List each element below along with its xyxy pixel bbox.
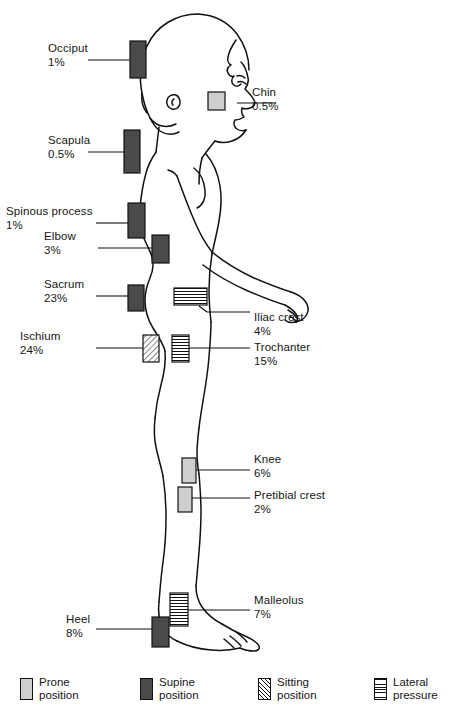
marker-occiput [130,41,146,78]
label-ischium-value: 24% [20,344,60,358]
label-occiput: Occiput 1% [48,42,88,69]
legend-label-lateral-line2: pressure [393,689,438,702]
label-ischium: Ischium 24% [20,330,60,357]
body-figure-svg [0,0,452,720]
legend: Prone position Supine position Sitting p… [0,668,452,712]
label-chin: Chin 0.5% [252,86,279,113]
label-occiput-value: 1% [48,56,88,70]
legend-label-supine: Supine position [159,676,199,702]
label-knee: Knee 6% [254,453,281,480]
label-elbow: Elbow 3% [44,230,76,257]
label-scapula-value: 0.5% [48,148,90,162]
label-chin-value: 0.5% [252,100,279,114]
pressure-points-diagram: Occiput 1% Chin 0.5% Scapula 0.5% Spinou… [0,0,452,720]
label-ischium-name: Ischium [20,330,60,344]
label-trochanter-value: 15% [254,355,310,369]
marker-elbow [152,235,169,263]
label-heel: Heel 8% [66,613,90,640]
label-occiput-name: Occiput [48,42,88,56]
marker-heel [152,617,169,647]
marker-chin [208,92,225,110]
label-spinous-process-name: Spinous process [6,205,93,219]
label-malleolus-value: 7% [254,608,303,622]
legend-label-lateral: Lateral pressure [393,676,438,702]
label-iliac-crest-value: 4% [254,325,304,339]
legend-item-sitting: Sitting position [258,676,317,702]
label-scapula: Scapula 0.5% [48,134,90,161]
legend-swatch-prone [20,678,33,700]
legend-label-prone: Prone position [39,676,79,702]
legend-item-prone: Prone position [20,676,79,702]
legend-label-sitting-line2: position [277,689,317,702]
label-sacrum-value: 23% [44,292,84,306]
label-heel-value: 8% [66,627,90,641]
label-malleolus: Malleolus 7% [254,594,303,621]
label-malleolus-name: Malleolus [254,594,303,608]
legend-swatch-lateral [374,678,387,700]
leader-iliac-2 [199,306,207,312]
legend-label-sitting: Sitting position [277,676,317,702]
label-knee-value: 6% [254,467,281,481]
label-pretibial-crest: Pretibial crest 2% [254,489,325,516]
marker-ischium [143,335,159,362]
label-elbow-value: 3% [44,244,76,258]
label-trochanter-name: Trochanter [254,341,310,355]
label-pretibial-crest-name: Pretibial crest [254,489,325,503]
label-iliac-crest: Iliac crest 4% [254,311,304,338]
label-elbow-name: Elbow [44,230,76,244]
legend-label-prone-line2: position [39,689,79,702]
marker-trochanter [172,335,189,362]
label-chin-name: Chin [252,86,279,100]
marker-pretibial-crest [178,487,192,512]
legend-label-sitting-line1: Sitting [277,676,317,689]
legend-swatch-supine [140,678,153,700]
legend-item-supine: Supine position [140,676,199,702]
marker-malleolus [170,593,188,626]
label-scapula-name: Scapula [48,134,90,148]
label-sacrum-name: Sacrum [44,278,84,292]
marker-sacrum [128,285,144,311]
label-trochanter: Trochanter 15% [254,341,310,368]
legend-label-supine-line1: Supine [159,676,199,689]
marker-iliac-crest [174,288,207,305]
label-sacrum: Sacrum 23% [44,278,84,305]
label-pretibial-crest-value: 2% [254,503,325,517]
marker-scapula [124,130,140,173]
label-spinous-process: Spinous process 1% [6,205,93,232]
marker-knee [182,458,196,483]
legend-label-lateral-line1: Lateral [393,676,438,689]
label-iliac-crest-name: Iliac crest [254,311,304,325]
marker-spinous-process [128,203,145,238]
legend-label-prone-line1: Prone [39,676,79,689]
legend-item-lateral: Lateral pressure [374,676,438,702]
legend-swatch-sitting [258,678,271,700]
label-knee-name: Knee [254,453,281,467]
legend-label-supine-line2: position [159,689,199,702]
label-heel-name: Heel [66,613,90,627]
